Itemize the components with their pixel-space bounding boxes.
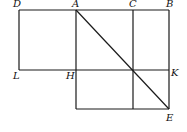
label-k: K <box>170 67 179 78</box>
label-c: C <box>129 0 137 9</box>
label-h: H <box>65 70 75 81</box>
diagonal-ae <box>76 10 169 109</box>
geometry-diagram: D A C B L H K E <box>0 0 187 132</box>
label-a: A <box>71 0 79 9</box>
label-b: B <box>165 0 173 9</box>
label-d: D <box>12 0 21 9</box>
label-e: E <box>165 112 174 123</box>
label-l: L <box>12 70 20 81</box>
